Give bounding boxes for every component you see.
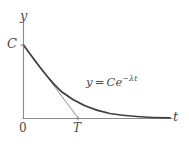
curve-equation-label: y=Ce−λt xyxy=(86,75,137,88)
equation-exponent-t: t xyxy=(134,74,137,83)
equation-coefficient: C xyxy=(107,75,116,89)
plot-canvas xyxy=(0,0,189,147)
y-intercept-label: C xyxy=(7,37,17,50)
t-axis-label: t xyxy=(173,110,178,123)
origin-label: 0 xyxy=(19,122,27,134)
time-constant-label: T xyxy=(73,122,81,134)
equation-operator: = xyxy=(93,75,107,89)
exponential-decay-figure: y t C 0 T y=Ce−λt xyxy=(0,0,189,147)
equation-base: e xyxy=(116,75,123,89)
equation-lhs: y xyxy=(86,75,93,89)
y-axis-label: y xyxy=(20,9,27,22)
equation-exponent: −λt xyxy=(123,74,138,83)
